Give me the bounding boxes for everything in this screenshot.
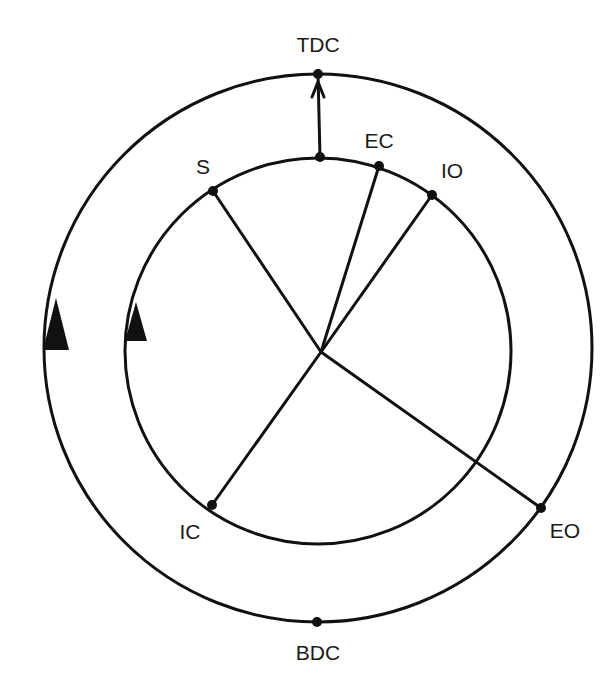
dot-tdc-inner [315, 152, 325, 162]
label-s: S [196, 155, 210, 178]
dot-io [427, 190, 437, 200]
label-bdc: BDC [296, 641, 340, 664]
line-to-ic [212, 352, 321, 505]
line-to-ec [321, 166, 379, 352]
label-ec: EC [364, 129, 393, 152]
label-io: IO [441, 159, 463, 182]
dot-bdc [312, 617, 322, 627]
line-to-io [321, 195, 432, 352]
dot-tdc-outer [313, 69, 323, 79]
label-tdc: TDC [296, 33, 339, 56]
label-eo: EO [550, 519, 580, 542]
radial-lines [212, 166, 541, 508]
dot-ec [374, 161, 384, 171]
valve-timing-diagram: TDC BDC S EC IO IC EO [0, 0, 615, 691]
line-to-s [213, 191, 321, 352]
tdc-connector [312, 74, 324, 157]
dot-s [208, 186, 218, 196]
dot-eo [536, 503, 546, 513]
dot-ic [207, 500, 217, 510]
inner-circle [125, 158, 511, 544]
label-ic: IC [180, 520, 201, 543]
